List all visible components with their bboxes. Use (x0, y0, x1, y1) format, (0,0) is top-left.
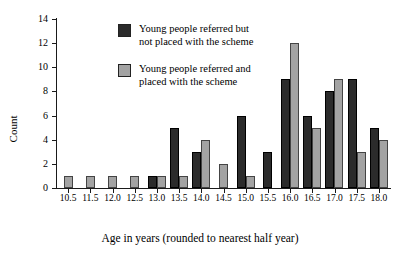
bar (357, 152, 366, 188)
bar (246, 176, 255, 188)
x-axis-tick-label: 15.0 (237, 194, 254, 204)
dark-square-swatch-icon (118, 24, 131, 37)
y-axis-tick (52, 188, 57, 189)
x-axis-tick-label: 10.5 (60, 194, 77, 204)
y-axis-tick-label: 6 (0, 111, 48, 121)
x-axis-title: Age in years (rounded to nearest half ye… (0, 232, 400, 244)
y-axis-tick-label: 0 (0, 183, 48, 193)
bar (170, 128, 179, 188)
bar-group (368, 19, 390, 188)
bar (325, 91, 334, 188)
x-axis-tick-label: 15.5 (260, 194, 277, 204)
x-axis-tick-label: 14.0 (193, 194, 210, 204)
x-axis-tick-label: 16.5 (304, 194, 321, 204)
bar (312, 128, 321, 188)
y-axis-tick-label: 12 (0, 38, 48, 48)
x-axis-tick-label: 13.5 (171, 194, 188, 204)
chart-legend: Young people referred but not placed wit… (118, 22, 338, 103)
legend-item-label: Young people referred but not placed wit… (139, 22, 253, 48)
bar (157, 176, 166, 188)
legend-line-1: Young people referred but (139, 23, 249, 34)
bar (303, 116, 312, 188)
bar (86, 176, 95, 188)
x-axis-tick-label: 14.5 (215, 194, 232, 204)
legend-item-not-placed: Young people referred but not placed wit… (118, 22, 338, 48)
bar (192, 152, 201, 188)
legend-line-2: placed with the scheme (139, 76, 237, 87)
y-axis-tick-label: 2 (0, 159, 48, 169)
legend-line-1: Young people referred and (139, 63, 251, 74)
bar (370, 128, 379, 188)
x-axis-tick-label: 12.0 (104, 194, 121, 204)
y-axis-tick-label: 8 (0, 86, 48, 96)
y-axis-tick-label: 4 (0, 135, 48, 145)
bar (130, 176, 139, 188)
bar-group (346, 19, 368, 188)
legend-item-placed: Young people referred and placed with th… (118, 62, 338, 88)
gray-square-swatch-icon (118, 64, 131, 77)
bar (263, 152, 272, 188)
legend-line-2: not placed with the scheme (139, 36, 253, 47)
bar-group (79, 19, 101, 188)
bar (179, 176, 188, 188)
y-axis-tick-label: 14 (0, 14, 48, 24)
x-axis-tick-label: 16.0 (282, 194, 299, 204)
bar (219, 164, 228, 188)
bar (148, 176, 157, 188)
x-axis-tick-label: 11.5 (82, 194, 98, 204)
y-axis-tick-label: 10 (0, 62, 48, 72)
bar (64, 176, 73, 188)
x-axis-tick-label: 17.0 (326, 194, 343, 204)
bar (108, 176, 117, 188)
bar (237, 116, 246, 188)
x-axis-tick-label: 18.0 (371, 194, 388, 204)
x-axis-tick-label: 12.5 (126, 194, 143, 204)
x-axis-tick-label: 13.0 (149, 194, 166, 204)
bar (348, 79, 357, 188)
legend-item-label: Young people referred and placed with th… (139, 62, 251, 88)
bar (379, 140, 388, 188)
bar-chart-figure: Count 02468101214 10.511.512.012.513.013… (0, 0, 400, 258)
x-axis-tick-label: 17.5 (348, 194, 365, 204)
bar-group (57, 19, 79, 188)
bar (201, 140, 210, 188)
